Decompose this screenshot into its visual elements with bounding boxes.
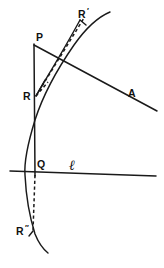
point-label-q: Q [37, 158, 45, 170]
label-q-letter: Q [37, 158, 45, 170]
label-r-prime-mark: ′ [87, 6, 89, 15]
label-r-double-prime-letter: R [16, 225, 24, 237]
label-r-prime-letter: R [78, 8, 86, 20]
label-p-letter: P [36, 31, 43, 43]
diagram-canvas: R ′ P R Q R ″ A ℓ [0, 0, 164, 268]
geometry-figure: R ′ P R Q R ″ A ℓ [0, 0, 164, 268]
label-line-a: A [128, 87, 136, 99]
label-r-letter: R [23, 90, 31, 102]
point-label-p: P [36, 31, 43, 43]
segment-pq-vertical [34, 44, 35, 176]
point-label-r: R [23, 90, 31, 102]
label-line-ell: ℓ [69, 158, 75, 173]
label-r-double-prime-mark: ″ [25, 223, 29, 232]
